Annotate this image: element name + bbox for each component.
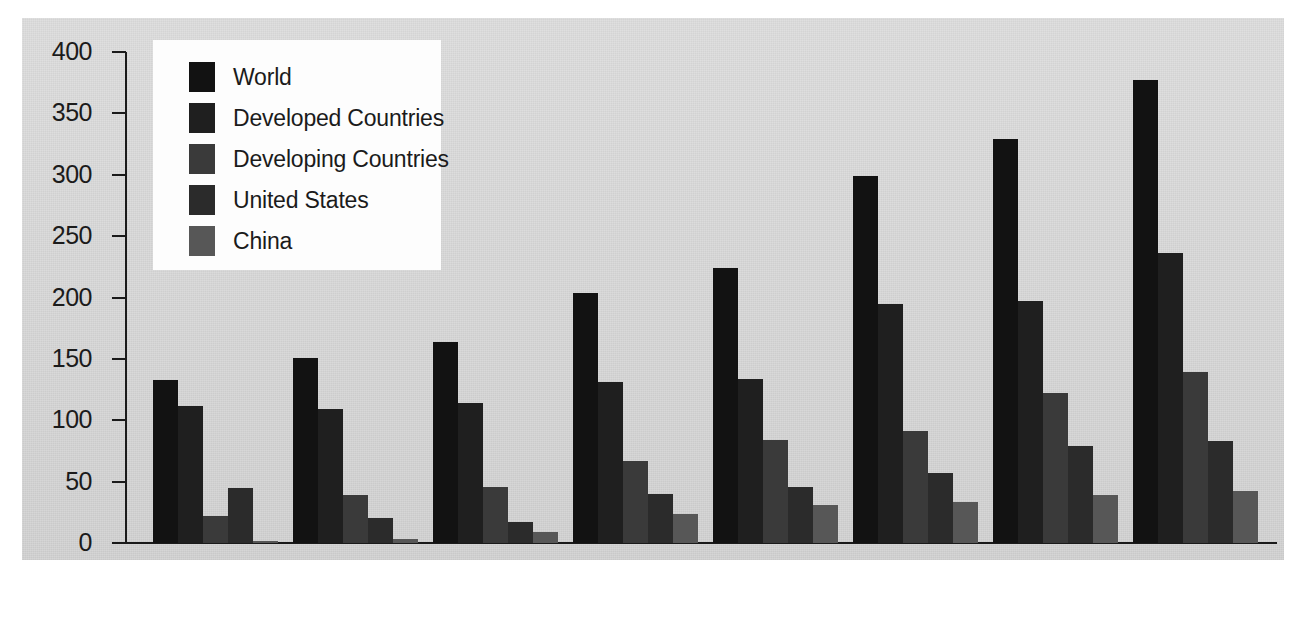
y-tick-label-0: 0	[22, 530, 92, 555]
chart-figure: 400350300250200150100500 1985-1990199119…	[0, 0, 1306, 618]
bar-1985-1990-china	[253, 541, 278, 543]
bar-1996-developed-countries	[1018, 301, 1043, 543]
bar-1997-china	[1233, 491, 1258, 543]
y-tick-350	[112, 112, 126, 114]
legend-item-china[interactable]: China	[189, 226, 292, 256]
bar-1995-developed-countries	[878, 304, 903, 543]
bar-1993-world	[573, 293, 598, 543]
bar-1985-1990-world	[153, 380, 178, 543]
y-tick-label-150: 150	[22, 346, 92, 371]
chart-legend: WorldDeveloped CountriesDeveloping Count…	[153, 40, 441, 270]
y-tick-label-400: 400	[22, 39, 92, 64]
legend-swatch-icon	[189, 185, 215, 215]
legend-label: World	[233, 64, 292, 91]
bar-1997-world	[1133, 80, 1158, 543]
bar-1994-united-states	[788, 487, 813, 543]
bar-chart-plot: 400350300250200150100500 1985-1990199119…	[22, 18, 1284, 593]
legend-item-developed-countries[interactable]: Developed Countries	[189, 103, 444, 133]
bar-1996-china	[1093, 495, 1118, 543]
bar-1995-world	[853, 176, 878, 543]
bar-1995-developing-countries	[903, 431, 928, 543]
legend-label: Developed Countries	[233, 105, 444, 132]
y-tick-300	[112, 174, 126, 176]
y-tick-150	[112, 358, 126, 360]
scan-plate: 400350300250200150100500 1985-1990199119…	[22, 18, 1284, 593]
legend-swatch-icon	[189, 144, 215, 174]
y-tick-label-350: 350	[22, 100, 92, 125]
bar-1994-developed-countries	[738, 379, 763, 543]
bar-1992-china	[533, 532, 558, 543]
legend-swatch-icon	[189, 62, 215, 92]
bar-1997-united-states	[1208, 441, 1233, 543]
bar-1985-1990-developing-countries	[203, 516, 228, 543]
bar-1996-developing-countries	[1043, 393, 1068, 543]
bar-1993-united-states	[648, 494, 673, 543]
y-tick-label-250: 250	[22, 223, 92, 248]
bar-1991-developed-countries	[318, 409, 343, 543]
y-tick-400	[112, 51, 126, 53]
y-tick-250	[112, 235, 126, 237]
bar-1991-united-states	[368, 518, 393, 543]
legend-swatch-icon	[189, 103, 215, 133]
legend-item-united-states[interactable]: United States	[189, 185, 368, 215]
y-tick-label-50: 50	[22, 469, 92, 494]
y-tick-200	[112, 297, 126, 299]
bar-1993-china	[673, 514, 698, 543]
bar-1994-world	[713, 268, 738, 543]
y-tick-label-200: 200	[22, 285, 92, 310]
legend-label: United States	[233, 187, 368, 214]
page-bottom-margin	[22, 560, 1284, 618]
bar-1991-world	[293, 358, 318, 543]
legend-label: Developing Countries	[233, 146, 449, 173]
bar-1994-developing-countries	[763, 440, 788, 543]
bar-1993-developed-countries	[598, 382, 623, 543]
bar-1992-world	[433, 342, 458, 543]
y-tick-label-300: 300	[22, 162, 92, 187]
bar-1985-1990-developed-countries	[178, 406, 203, 543]
bar-1996-world	[993, 139, 1018, 543]
legend-item-developing-countries[interactable]: Developing Countries	[189, 144, 449, 174]
bar-1995-united-states	[928, 473, 953, 543]
bar-1991-china	[393, 539, 418, 543]
bar-1992-developed-countries	[458, 403, 483, 543]
legend-label: China	[233, 228, 292, 255]
y-tick-label-100: 100	[22, 407, 92, 432]
bar-1997-developed-countries	[1158, 253, 1183, 543]
y-tick-50	[112, 481, 126, 483]
bar-1994-china	[813, 505, 838, 543]
y-tick-0	[112, 542, 126, 544]
bar-1995-china	[953, 502, 978, 543]
bar-1991-developing-countries	[343, 495, 368, 543]
bar-1992-united-states	[508, 522, 533, 543]
bar-1997-developing-countries	[1183, 372, 1208, 543]
bar-1985-1990-united-states	[228, 488, 253, 543]
y-tick-100	[112, 419, 126, 421]
legend-swatch-icon	[189, 226, 215, 256]
bar-1996-united-states	[1068, 446, 1093, 543]
bar-1992-developing-countries	[483, 487, 508, 543]
legend-item-world[interactable]: World	[189, 62, 292, 92]
bar-1993-developing-countries	[623, 461, 648, 543]
